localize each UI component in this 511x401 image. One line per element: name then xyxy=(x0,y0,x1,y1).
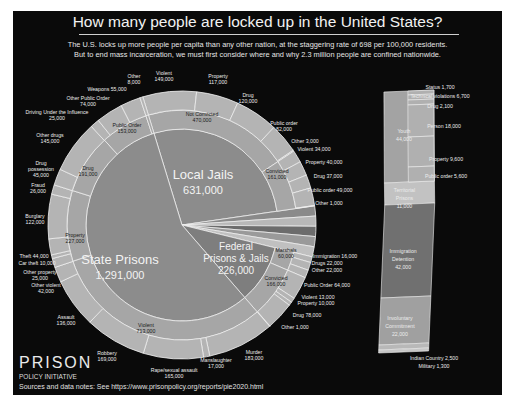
outer-label: Car theft 10,000 xyxy=(18,260,55,266)
label-federal-2: Prisons & Jails xyxy=(203,253,269,264)
outer-value: 183,000 xyxy=(245,355,264,361)
bar-label: Territorial xyxy=(394,187,415,193)
value-state-prisons: 1,291,000 xyxy=(96,269,145,281)
outer-value: 8,000 xyxy=(128,79,141,85)
side-label: Person 18,000 xyxy=(427,123,461,129)
side-label: Drug 2,100 xyxy=(427,103,453,109)
outer-label: Public Order 64,000 xyxy=(304,282,350,288)
bar-value: 11,000 xyxy=(397,203,413,209)
outer-value: 82,000 xyxy=(276,126,292,132)
label-local-jails: Local Jails xyxy=(173,167,234,182)
bar-label: Involuntary xyxy=(387,315,413,321)
outer-label: Drug 78,000 xyxy=(293,312,322,318)
outer-value: 165,000 xyxy=(165,373,184,379)
label-state-prisons: State Prisons xyxy=(81,252,159,267)
side-label: Property 9,600 xyxy=(429,156,463,162)
bar-value: 42,000 xyxy=(395,264,411,270)
value-local-jails: 631,000 xyxy=(183,184,223,196)
outer-label: Weapons 55,000 xyxy=(87,86,126,92)
outer-label: Drugs 22,000 xyxy=(311,260,342,266)
outer-label: Other 1,000 xyxy=(281,324,309,330)
bar-label-2: Commitment xyxy=(385,323,415,329)
outer-value: 136,000 xyxy=(57,320,76,326)
outer-value: 25,000 xyxy=(32,275,48,281)
youth-sub-4 xyxy=(408,136,434,167)
ring-value: 470,000 xyxy=(193,117,212,123)
outer-label: Property 10,000 xyxy=(298,300,335,306)
ring-value: 227,000 xyxy=(66,238,85,244)
outer-label: Property 40,000 xyxy=(306,159,343,165)
side-label: Status 1,700 xyxy=(425,84,454,90)
outer-value: 145,000 xyxy=(41,138,60,144)
bar-label: Immigration xyxy=(390,248,417,254)
value-federal: 226,000 xyxy=(218,265,255,276)
outer-value: 17,000 xyxy=(208,363,224,369)
pie-chart: Local Jails631,000State Prisons1,291,000… xyxy=(0,0,511,401)
ring-value: 153,000 xyxy=(118,128,137,134)
ring-value: 161,000 xyxy=(268,174,287,180)
ring-value: 60,000 xyxy=(278,253,294,259)
outer-label: Drug 37,000 xyxy=(314,173,343,179)
outer-value-2: 45,000 xyxy=(33,172,49,178)
block-territorial xyxy=(384,181,434,205)
label-federal: Federal xyxy=(219,241,253,252)
side-label: Public order 5,600 xyxy=(425,173,467,179)
outer-value: 25,000 xyxy=(49,115,65,121)
bar-label-2: Prisons xyxy=(396,195,414,201)
ring-value: 191,000 xyxy=(79,171,98,177)
outer-label: Other 1,000 xyxy=(315,200,343,206)
outer-value: 122,000 xyxy=(26,219,45,225)
ring-value: 166,000 xyxy=(267,281,286,287)
outer-value: 120,000 xyxy=(239,98,258,104)
outer-label: Other 3,000 xyxy=(291,138,319,144)
outer-label: Theft 44,000 xyxy=(19,253,48,259)
outer-value: 117,000 xyxy=(209,79,227,85)
outer-label: Other 22,000 xyxy=(312,267,342,273)
outer-value: 74,000 xyxy=(80,101,96,107)
bar-label-2: Detention xyxy=(392,256,414,262)
side-label: Military 1,300 xyxy=(419,363,450,369)
side-label: Indian Country 2,500 xyxy=(410,355,458,361)
outer-label: Immigration 16,000 xyxy=(313,253,358,259)
bar-label: Youth xyxy=(397,128,410,134)
bar-value: 22,000 xyxy=(392,331,408,337)
outer-value: 169,000 xyxy=(98,356,117,362)
outer-value: 149,000 xyxy=(155,76,174,82)
outer-value: 26,000 xyxy=(30,188,46,194)
ring-value: 713,000 xyxy=(137,328,156,334)
outer-value: 42,000 xyxy=(38,288,54,294)
outer-label: Public order 49,000 xyxy=(308,187,353,193)
side-label: Technical violations 6,700 xyxy=(410,93,469,99)
bar-label-2: 44,000 xyxy=(396,136,412,142)
outer-label: Violent 34,000 xyxy=(297,146,330,152)
